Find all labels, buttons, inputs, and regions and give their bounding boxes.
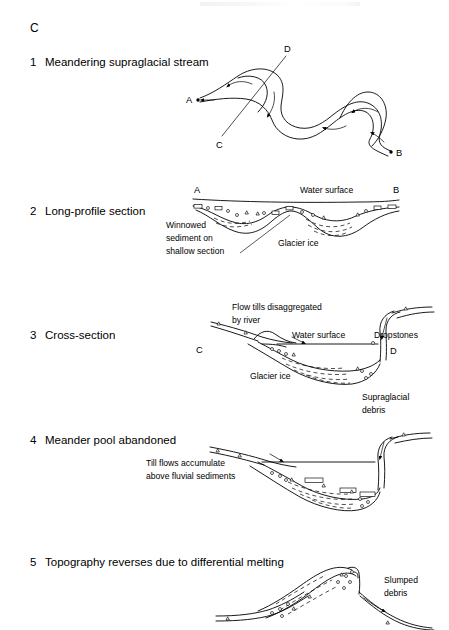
p4-supraglacial-line2: debris [362, 405, 385, 415]
p3-clast-2 [278, 350, 281, 353]
p3-ice-surface-left [211, 322, 292, 343]
p5-clast-5 [337, 581, 340, 584]
p3-dropstones-label: Dropstones [374, 330, 418, 340]
p2-clast-2 [227, 210, 230, 213]
panel-3-title: Cross-section [45, 329, 115, 341]
p2-till-tri-1 [245, 211, 248, 214]
panel-2-title: Long-profile section [45, 205, 145, 217]
p4-clast-1 [271, 472, 274, 475]
p2-winnowed-line1: Winnowed [166, 220, 206, 230]
p2-debris-slab-5 [374, 206, 381, 209]
panel-2-group: 2 Long-profile section [30, 185, 399, 256]
p2-debris-slab-6 [388, 205, 396, 208]
p4-supraglacial-line1: Supraglacial [362, 392, 409, 402]
p3-clast-3 [285, 353, 288, 356]
p4-till-tri-6 [402, 433, 405, 436]
panel-3-number: 3 [30, 329, 36, 341]
flow-arrow-6 [372, 133, 384, 142]
p3-ice-surface-right-2 [397, 312, 434, 318]
p5-slumped-line1: Slumped [384, 575, 418, 585]
p2-debris-slab-1 [194, 205, 202, 209]
p3-clast-dropstone [372, 342, 375, 345]
p2-debris-slab-2 [215, 207, 222, 210]
p2-clast-7 [365, 210, 368, 213]
p4-clast-4 [359, 498, 362, 501]
p4-till-slab-3 [360, 492, 375, 496]
p5-clast-9 [351, 571, 354, 574]
p2-clast-1 [207, 207, 210, 210]
p4-arrow-till-left [270, 454, 282, 461]
panel-1-label-d: D [284, 44, 291, 54]
p3-clast-6 [365, 377, 368, 380]
flow-arrow-1 [228, 82, 252, 86]
panel-3-label-c: C [196, 345, 203, 355]
p5-till-tri-3 [308, 595, 311, 598]
p5-clast-6 [345, 575, 348, 578]
p5-clast-1 [271, 612, 274, 615]
p3-clast-1 [271, 348, 274, 351]
group-letter-c: C [30, 21, 39, 35]
p2-debris-slab-4 [286, 207, 293, 210]
p2-till-tri-4 [356, 213, 359, 216]
panel-1-label-c: C [216, 140, 223, 150]
p2-channel-floor [196, 210, 399, 236]
p2-till-tri-2 [256, 212, 259, 215]
panel-2-label-b: B [393, 185, 399, 195]
p5-clast-3 [287, 603, 290, 606]
panel-2-label-a: A [194, 185, 201, 195]
panel-5-title: Topography reverses due to differential … [45, 556, 284, 568]
p3-till-tri-1 [217, 322, 220, 325]
p4-clast-2 [279, 475, 282, 478]
p2-water-surface-label: Water surface [300, 185, 353, 195]
p3-water-surface-label: Water surface [292, 330, 345, 340]
p4-till-tri-3 [290, 478, 293, 481]
p2-winnowed-line2: sediment on [166, 233, 213, 243]
p5-clast-2 [279, 608, 282, 611]
p4-ice-surface-right-2 [395, 438, 432, 443]
p5-slump-surface-2 [360, 596, 434, 630]
p2-clast-4 [263, 212, 266, 215]
p4-clast-3 [285, 479, 288, 482]
transect-line-cd [222, 56, 286, 136]
p5-till-tri-1 [226, 617, 229, 620]
p4-clast-6 [361, 505, 364, 508]
p5-ridge-base [266, 573, 356, 618]
p5-ridge-top [258, 567, 352, 611]
panel-4-title: Meander pool abandoned [45, 434, 176, 446]
p3-flow-tills-line1: Flow tills disaggregated [232, 302, 322, 312]
p4-till-slab-1 [305, 478, 323, 482]
p4-till-tri-4 [322, 484, 325, 487]
p3-till-tri-5 [404, 307, 407, 310]
p4-right-bank-outer [384, 437, 398, 488]
panel-4-group: 4 Meander pool abandoned [30, 392, 432, 511]
p5-clast-7 [343, 587, 346, 590]
diagram-svg: C 1 Meandering supraglacial stream [0, 0, 449, 630]
p4-strat-4 [312, 500, 354, 508]
p3-clast-5 [370, 373, 373, 376]
panel-1-label-a: A [186, 95, 193, 105]
p3-flow-till-lobe [254, 331, 296, 343]
panel-1-title: Meandering supraglacial stream [45, 56, 209, 68]
p3-flow-tills-line2: by river [232, 315, 260, 325]
p4-till-slab-2 [340, 488, 356, 492]
p4-till-tri-1 [216, 449, 219, 452]
point-a-dot [196, 98, 199, 101]
p4-till-flows-line2: above fluvial sediments [146, 471, 235, 481]
p4-till-tri-2 [238, 454, 241, 457]
p2-strat-1 [214, 218, 250, 223]
figure-canvas: C 1 Meandering supraglacial stream [0, 0, 449, 630]
p3-glacier-ice-label: Glacier ice [250, 371, 291, 381]
p2-water-surface-line [193, 199, 399, 202]
p3-clast-4 [361, 370, 364, 373]
p4-clast-5 [367, 501, 370, 504]
p2-strat-4 [308, 225, 352, 232]
stream-bank-lower [200, 98, 388, 156]
p3-sediment-top [258, 342, 380, 371]
panel-5-number: 5 [30, 556, 36, 568]
p2-debris-slab-3 [272, 211, 279, 214]
panel-3-label-d: D [390, 346, 397, 356]
p3-till-tri-4 [356, 367, 359, 370]
p4-till-flows-line1: Till flows accumulate [146, 458, 225, 468]
p2-clast-6 [312, 214, 315, 217]
panel-4-number: 4 [30, 434, 37, 446]
